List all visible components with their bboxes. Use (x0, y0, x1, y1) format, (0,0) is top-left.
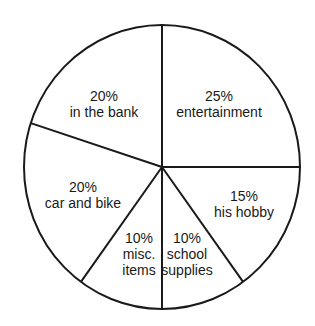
pie-chart-canvas: 25%entertainment15%his hobby10%schoolsup… (0, 0, 315, 326)
slice-label-misc-items: 10%misc.items (122, 230, 155, 278)
pie-chart: 25%entertainment15%his hobby10%schoolsup… (0, 0, 315, 326)
